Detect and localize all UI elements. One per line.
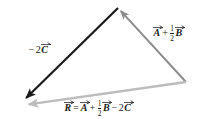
operator-equals: = bbox=[72, 102, 81, 113]
fraction-numerator: 1 bbox=[98, 100, 102, 108]
symbol-vector-b: B bbox=[102, 103, 110, 113]
operator-minus: − bbox=[27, 44, 36, 55]
fraction-numerator: 1 bbox=[170, 25, 174, 33]
symbol-vector-a: A bbox=[80, 103, 88, 113]
operator-plus: + bbox=[88, 102, 97, 113]
operator-plus: + bbox=[161, 27, 170, 38]
vector-a-plus-half-b-arrow bbox=[121, 11, 186, 82]
fraction-denominator: 2 bbox=[170, 34, 174, 42]
label-vector-minus-two-c: −2C bbox=[27, 45, 48, 55]
symbol-vector-a: A bbox=[153, 28, 161, 38]
symbol-vector-b: B bbox=[175, 28, 183, 38]
symbol-vector-r: R bbox=[64, 103, 72, 113]
symbol-vector-c: C bbox=[41, 45, 49, 55]
label-vector-a-plus-half-b: A+12B bbox=[153, 25, 183, 42]
symbol-vector-c: C bbox=[124, 103, 132, 113]
fraction-denominator: 2 bbox=[98, 109, 102, 117]
vector-diagram-figure: A+12B −2C R=A+12B−2C bbox=[0, 0, 202, 119]
label-resultant-equation: R=A+12B−2C bbox=[64, 100, 131, 117]
operator-minus: − bbox=[110, 102, 119, 113]
